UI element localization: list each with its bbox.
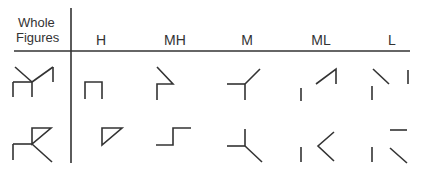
row2-h-part	[102, 128, 122, 145]
column-header-h: H	[96, 32, 106, 48]
row1-m-part	[227, 69, 260, 100]
column-header-m: M	[241, 32, 253, 48]
row2-l-part	[372, 130, 407, 163]
column-header-mh: MH	[164, 32, 186, 48]
row1-ml-part	[301, 69, 336, 101]
row-header-whole: Whole	[18, 15, 55, 30]
row2-mh-part	[156, 128, 191, 145]
row-header-figures: Figures	[16, 30, 59, 45]
row2-ml-part	[301, 132, 334, 162]
row2-m-part	[227, 129, 262, 162]
whole-figure-1	[13, 67, 53, 97]
table-drawing	[0, 0, 426, 175]
row1-l-part	[372, 69, 408, 100]
whole-figure-2	[13, 128, 52, 162]
column-header-ml: ML	[311, 32, 330, 48]
figure-decomposition-table: Whole Figures H MH M ML L	[0, 0, 426, 175]
row1-mh-part	[157, 67, 173, 100]
column-header-l: L	[388, 32, 396, 48]
row1-h-part	[85, 82, 102, 99]
